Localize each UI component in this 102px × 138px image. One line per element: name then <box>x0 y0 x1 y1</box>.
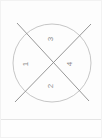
quadrant-label-top: 3 <box>47 34 57 44</box>
quadrant-label-right: 4 <box>66 59 76 69</box>
circle-diagram-svg <box>1 1 102 119</box>
quadrant-circle-figure: 3 1 4 2 <box>1 1 102 119</box>
quadrant-label-left: 1 <box>22 59 32 69</box>
quadrant-label-bottom: 2 <box>47 81 57 91</box>
diagram-page: 3 1 4 2 <box>0 0 102 138</box>
footer-area <box>1 120 102 138</box>
